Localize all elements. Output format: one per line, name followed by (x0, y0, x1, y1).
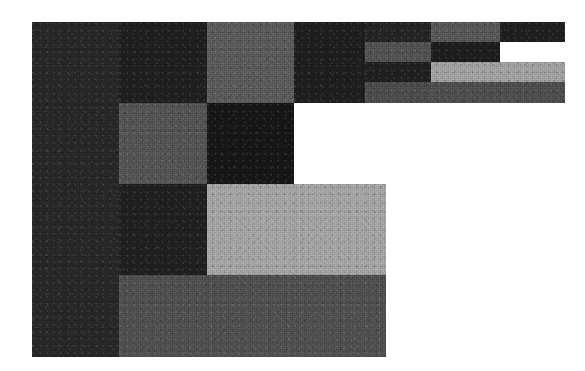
mosaic-cell-lower-left-dark-block (119, 184, 207, 275)
mosaic-cell-r4-col5-gray (365, 82, 431, 103)
mosaic-plot-canvas (0, 0, 585, 371)
mosaic-cell-r2-col5-gray (365, 42, 431, 62)
mosaic-cell-lower-center-light-block (207, 184, 386, 275)
mosaic-cell-left-column-block (32, 22, 119, 357)
mosaic-cell-r1-col5-mid (365, 22, 431, 42)
mosaic-cell-r1-col6-light (431, 22, 500, 42)
mosaic-cell-r3-col5-dark (365, 62, 431, 82)
mosaic-cell-mid-left-gray-square (119, 103, 207, 184)
mosaic-cell-r3-col6-light (431, 62, 565, 82)
mosaic-cell-top-mid-gray-block (207, 22, 294, 103)
mosaic-cell-r2-col6-dark (431, 42, 500, 62)
mosaic-cell-top-left-dark-block (119, 22, 207, 103)
mosaic-cell-mid-center-very-dark (207, 103, 294, 184)
mosaic-cell-top-right-dark-wide (294, 22, 365, 103)
mosaic-cell-r1-col7-dark (500, 22, 565, 42)
mosaic-cell-r4-col6-mid (431, 82, 565, 103)
mosaic-cell-bottom-wide-mid-block (119, 275, 386, 357)
